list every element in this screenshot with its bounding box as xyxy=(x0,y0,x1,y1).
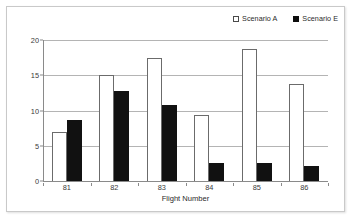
x-tick-mark xyxy=(91,183,92,186)
bar-scenario-e-84[interactable] xyxy=(209,163,224,181)
bar-scenario-e-82[interactable] xyxy=(114,91,129,181)
legend-swatch-icon xyxy=(293,16,299,22)
chart-legend: Scenario AScenario E xyxy=(233,14,338,23)
legend-swatch-icon xyxy=(233,16,239,22)
bar-scenario-e-81[interactable] xyxy=(67,120,82,181)
x-tick-label-85: 85 xyxy=(233,183,281,192)
bar-scenario-a-84[interactable] xyxy=(194,115,209,181)
bar-scenario-e-86[interactable] xyxy=(304,166,319,181)
legend-entry-scenario-e: Scenario E xyxy=(293,14,338,23)
bar-scenario-a-83[interactable] xyxy=(147,58,162,181)
x-tick-label-82: 82 xyxy=(91,183,139,192)
x-tick-label-81: 81 xyxy=(43,183,91,192)
bar-group-83 xyxy=(138,40,186,181)
bar-group-85 xyxy=(233,40,281,181)
chart-frame: Scenario AScenario E 05101520 8182838485… xyxy=(6,6,345,212)
x-tick-mark xyxy=(138,183,139,186)
chart-canvas: Scenario AScenario E 05101520 8182838485… xyxy=(7,7,346,213)
bar-scenario-e-85[interactable] xyxy=(257,163,272,181)
legend-label: Scenario E xyxy=(302,14,338,23)
x-tick-mark xyxy=(186,183,187,186)
x-axis-tick-labels: 818283848586 xyxy=(43,183,328,192)
y-tick-label: 15 xyxy=(31,71,39,80)
x-tick-label-86: 86 xyxy=(281,183,329,192)
y-tick-label: 0 xyxy=(35,177,39,186)
x-axis-title: Flight Number xyxy=(43,194,328,203)
x-tick-mark xyxy=(43,183,44,186)
x-tick-mark xyxy=(328,183,329,186)
x-tick-mark xyxy=(233,183,234,186)
bar-group-86 xyxy=(281,40,329,181)
bar-scenario-a-81[interactable] xyxy=(52,132,67,181)
bar-scenario-a-85[interactable] xyxy=(242,49,257,181)
bar-group-82 xyxy=(91,40,139,181)
y-tick-label: 20 xyxy=(31,36,39,45)
bar-scenario-a-86[interactable] xyxy=(289,84,304,181)
x-tick-label-84: 84 xyxy=(186,183,234,192)
y-tick-label: 5 xyxy=(35,141,39,150)
legend-label: Scenario A xyxy=(242,14,277,23)
x-tick-mark xyxy=(281,183,282,186)
bars-layer xyxy=(43,40,328,181)
y-tick-label: 10 xyxy=(31,106,39,115)
bar-scenario-e-83[interactable] xyxy=(162,105,177,181)
bar-group-81 xyxy=(43,40,91,181)
x-tick-label-83: 83 xyxy=(138,183,186,192)
bar-scenario-a-82[interactable] xyxy=(99,75,114,181)
bar-group-84 xyxy=(186,40,234,181)
legend-entry-scenario-a: Scenario A xyxy=(233,14,277,23)
gridline-y-0 xyxy=(43,181,328,182)
